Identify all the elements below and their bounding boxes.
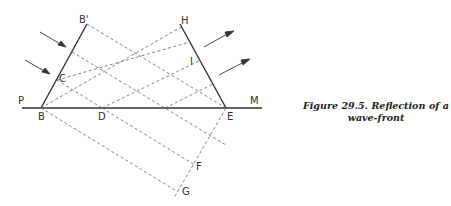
reflected-wavefront bbox=[180, 24, 226, 108]
image-wavefront bbox=[174, 108, 226, 198]
reflection-diagram: P M B B' C D E H I F G bbox=[0, 0, 300, 206]
label-i: I bbox=[190, 56, 193, 67]
incident-ray-b-prime-e bbox=[87, 24, 226, 108]
incident-arrow-1 bbox=[40, 32, 62, 45]
figure-caption: Figure 29.5. Reflection of a wave-front bbox=[303, 100, 449, 124]
label-g: G bbox=[182, 186, 190, 197]
arrowhead-icon bbox=[42, 68, 50, 74]
caption-line-1: Figure 29.5. Reflection of a bbox=[303, 100, 449, 112]
incident-ray-cont bbox=[102, 108, 195, 165]
label-b-prime: B' bbox=[79, 14, 89, 25]
label-f: F bbox=[196, 161, 202, 172]
label-e: E bbox=[227, 111, 233, 122]
arrowhead-icon bbox=[58, 41, 66, 47]
label-m: M bbox=[250, 95, 259, 106]
reflected-ray-mid bbox=[57, 42, 190, 80]
label-p: P bbox=[18, 95, 24, 106]
incident-ray-b-g bbox=[41, 108, 178, 192]
arrowhead-icon bbox=[225, 31, 234, 37]
incident-ray-c bbox=[57, 80, 102, 108]
label-h: H bbox=[181, 15, 189, 26]
label-d: D bbox=[98, 111, 106, 122]
arrowhead-icon bbox=[241, 59, 250, 65]
label-c: C bbox=[59, 73, 66, 84]
reflected-arrow-1 bbox=[204, 33, 229, 47]
reflected-ray-b-h bbox=[41, 27, 181, 108]
caption-line-2: wave-front bbox=[303, 112, 449, 124]
label-b: B bbox=[38, 111, 45, 122]
